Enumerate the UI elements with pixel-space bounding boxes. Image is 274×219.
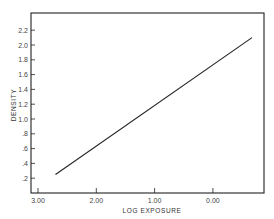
curve-line xyxy=(56,38,253,175)
density-vs-log-exposure-chart: .2.4.6.81.01.21.41.61.82.02.2 3.002.001.… xyxy=(0,0,274,219)
y-tick-label: .6 xyxy=(22,145,28,152)
x-tick-label: 1.00 xyxy=(148,197,162,204)
plot-border xyxy=(31,13,264,193)
y-tick-label: 2.0 xyxy=(18,42,28,49)
x-axis-title: LOG EXPOSURE xyxy=(123,207,182,214)
y-tick-label: 1.0 xyxy=(18,116,28,123)
y-tick-label: 1.4 xyxy=(18,86,28,93)
y-tick-label: 1.8 xyxy=(18,56,28,63)
x-tick-label: 2.00 xyxy=(89,197,103,204)
data-series xyxy=(56,38,253,175)
x-axis-ticks: 3.002.001.000.00 xyxy=(31,188,220,204)
y-axis-ticks: .2.4.6.81.01.21.41.61.82.02.2 xyxy=(18,27,35,182)
plot-frame xyxy=(31,13,264,193)
y-axis-title: DENSITY xyxy=(10,89,17,121)
x-tick-label: 3.00 xyxy=(31,197,45,204)
y-tick-label: 1.6 xyxy=(18,71,28,78)
x-tick-label: 0.00 xyxy=(206,197,220,204)
y-tick-label: .4 xyxy=(22,160,28,167)
y-tick-label: .8 xyxy=(22,130,28,137)
y-tick-label: 1.2 xyxy=(18,101,28,108)
y-tick-label: 2.2 xyxy=(18,27,28,34)
y-tick-label: .2 xyxy=(22,175,28,182)
